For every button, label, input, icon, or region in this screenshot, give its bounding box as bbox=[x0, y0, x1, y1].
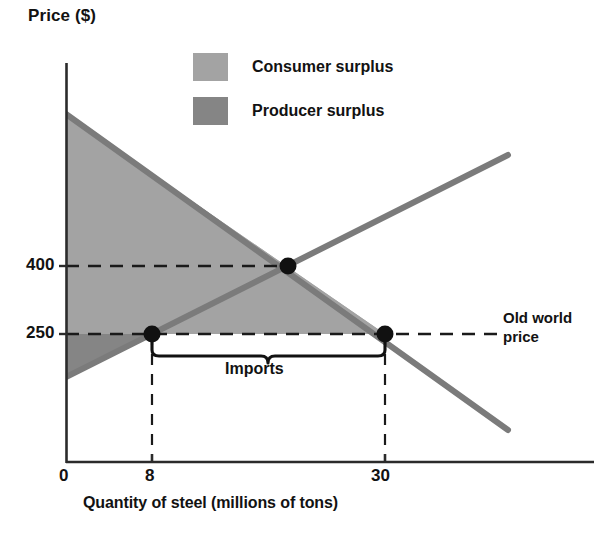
x-tick-label-30: 30 bbox=[371, 466, 390, 485]
legend-label-producer-surplus: Producer surplus bbox=[252, 102, 384, 120]
legend-item-producer-surplus: Producer surplus bbox=[193, 94, 453, 128]
legend-label-consumer-surplus: Consumer surplus bbox=[252, 58, 393, 76]
legend-item-consumer-surplus: Consumer surplus bbox=[193, 50, 453, 84]
legend-swatch-consumer-surplus bbox=[193, 53, 228, 81]
legend-swatch-producer-surplus bbox=[193, 97, 228, 125]
old-world-price-label: Old worldprice bbox=[503, 309, 572, 347]
equilibrium-point bbox=[280, 258, 297, 275]
old-world-price-line2: price bbox=[503, 328, 539, 345]
y-axis-title: Price ($) bbox=[28, 6, 96, 25]
y-tick-label-250: 250 bbox=[26, 323, 54, 342]
economics-chart: Price ($) Quantity of steel (millions of… bbox=[0, 0, 611, 533]
x-tick-label-8: 8 bbox=[145, 466, 154, 485]
x-tick-label-0: 0 bbox=[59, 466, 68, 485]
old-world-price-line1: Old world bbox=[503, 309, 572, 326]
chart-legend: Consumer surplus Producer surplus bbox=[193, 50, 453, 138]
domestic-demand-point bbox=[377, 326, 394, 343]
x-axis-title: Quantity of steel (millions of tons) bbox=[83, 494, 338, 512]
y-tick-label-400: 400 bbox=[26, 255, 54, 274]
imports-label: Imports bbox=[225, 360, 284, 378]
domestic-supply-point bbox=[144, 326, 161, 343]
